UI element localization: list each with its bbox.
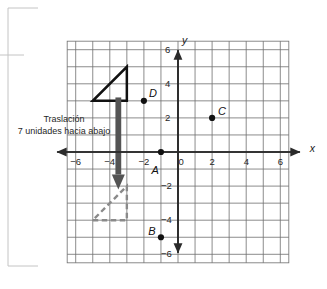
y-tick--2: −2 bbox=[161, 181, 172, 191]
translation-arrow bbox=[112, 97, 125, 189]
figure-canvas: x y −6−4−20246642−2−4−6ABCD Traslación 7… bbox=[0, 0, 327, 289]
x-tick-2: 2 bbox=[210, 157, 215, 167]
y-tick-4: 4 bbox=[165, 79, 170, 89]
point-label-b: B bbox=[148, 226, 155, 237]
point-c bbox=[209, 115, 215, 121]
annotation-line-1: Traslación bbox=[8, 113, 120, 125]
point-a bbox=[158, 149, 164, 155]
x-tick-4: 4 bbox=[244, 157, 249, 167]
point-b bbox=[158, 234, 164, 240]
y-tick--4: −4 bbox=[161, 215, 172, 225]
y-axis-label: y bbox=[182, 35, 187, 46]
x-tick-6: 6 bbox=[278, 157, 283, 167]
coordinate-plane-graphic bbox=[0, 0, 327, 289]
x-tick-0: 0 bbox=[179, 157, 184, 167]
translation-annotation: Traslación 7 unidades hacia abajo bbox=[8, 113, 120, 137]
x-tick--6: −6 bbox=[70, 157, 81, 167]
point-label-d: D bbox=[149, 88, 157, 99]
x-axis-label: x bbox=[310, 143, 315, 154]
point-label-a: A bbox=[152, 165, 159, 176]
annotation-line-2: 7 unidades hacia abajo bbox=[8, 125, 120, 137]
x-tick--4: −4 bbox=[104, 157, 115, 167]
y-tick-2: 2 bbox=[165, 113, 170, 123]
y-tick-6: 6 bbox=[165, 45, 170, 55]
page-margin-bracket bbox=[0, 8, 38, 266]
point-d bbox=[141, 98, 147, 104]
x-tick--2: −2 bbox=[138, 157, 149, 167]
y-tick--6: −6 bbox=[161, 249, 172, 259]
point-label-c: C bbox=[218, 106, 226, 117]
